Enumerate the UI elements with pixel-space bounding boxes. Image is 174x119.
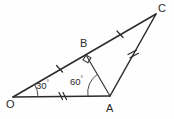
angle-label-A: 60° [70,76,83,87]
degree-symbol-O: ° [47,79,50,86]
geometry-figure: O A B C 30° 60° [0,0,174,119]
vertex-label-O: O [6,99,15,110]
segment-AB [86,55,110,96]
angle-value-A: 60 [70,76,81,87]
vertex-label-A: A [106,103,113,114]
angle-arc-A [88,75,97,97]
angle-value-O: 30 [36,80,47,91]
degree-symbol-A: ° [81,75,84,82]
angle-label-O: 30° [36,80,49,91]
geometry-canvas [0,0,174,119]
vertex-label-B: B [80,38,87,49]
vertex-label-C: C [158,3,166,14]
segment-AC [110,14,156,96]
